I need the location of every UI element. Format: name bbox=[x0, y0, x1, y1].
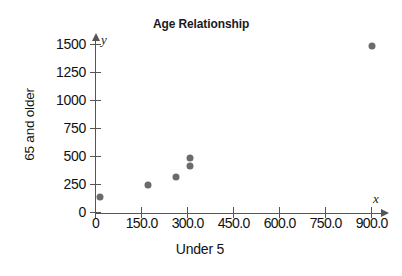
y-axis-tick-label: 500 bbox=[30, 148, 86, 164]
x-axis-tick-label: 600.0 bbox=[264, 215, 296, 231]
y-axis-tick bbox=[90, 128, 101, 129]
x-axis-line bbox=[95, 213, 383, 214]
y-axis-tick-label: 1250 bbox=[30, 64, 86, 80]
data-point bbox=[144, 181, 151, 188]
y-axis-tick bbox=[90, 72, 101, 73]
y-axis-letter: y bbox=[101, 32, 107, 48]
x-axis-title: Under 5 bbox=[120, 241, 280, 257]
x-axis-tick-label: 300.0 bbox=[172, 215, 204, 231]
data-point bbox=[368, 42, 375, 49]
scatter-chart-figure: Age Relationship y x 65 and older Under … bbox=[0, 0, 402, 276]
x-axis-tick-label: 150.0 bbox=[126, 215, 158, 231]
y-axis-tick bbox=[90, 184, 101, 185]
x-axis-tick-label: 750.0 bbox=[310, 215, 342, 231]
y-axis-tick-label: 0 bbox=[30, 204, 86, 220]
chart-title: Age Relationship bbox=[16, 16, 386, 31]
y-axis-tick-label: 1000 bbox=[30, 92, 86, 108]
y-axis-tick-label: 1500 bbox=[30, 36, 86, 52]
data-point bbox=[173, 173, 180, 180]
y-axis-tick-label: 750 bbox=[30, 120, 86, 136]
x-axis-tick-label: 450.0 bbox=[218, 215, 250, 231]
x-axis-tick-label: 0 bbox=[92, 215, 99, 231]
y-axis-tick bbox=[90, 100, 101, 101]
x-axis-letter: x bbox=[373, 191, 379, 207]
x-axis-tick-label: 900.0 bbox=[356, 215, 388, 231]
y-axis-arrow-icon bbox=[92, 33, 100, 41]
y-axis-tick bbox=[90, 44, 101, 45]
data-point bbox=[186, 162, 193, 169]
data-point bbox=[186, 154, 193, 161]
data-point bbox=[96, 194, 103, 201]
y-axis-tick bbox=[90, 156, 101, 157]
y-axis-tick-label: 250 bbox=[30, 176, 86, 192]
